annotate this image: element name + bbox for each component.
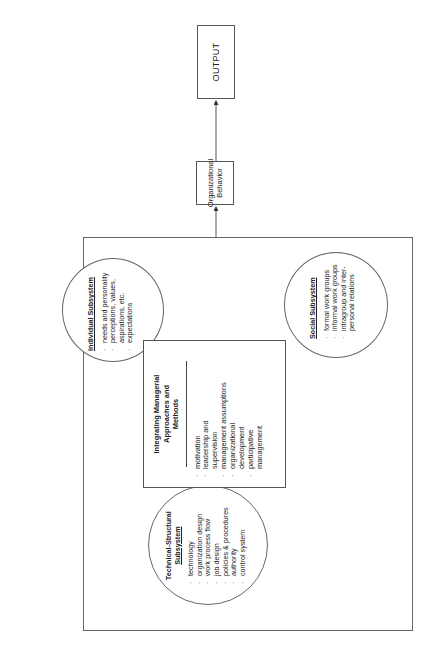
list-item: ·expectations: [126, 273, 135, 351]
center-title-line3: Methods: [171, 351, 181, 477]
center-divider: [186, 361, 187, 467]
output-box: OUTPUT: [197, 25, 235, 99]
list-item: management: [256, 351, 265, 477]
individual-title: Individual Subsystem: [87, 273, 96, 351]
technical-title-line2: Subsystem: [174, 507, 183, 584]
individual-list: ·needs and personality ·perceptions, val…: [101, 273, 135, 351]
center-list: ·motivation ·leadership and supervision …: [194, 351, 265, 477]
social-title: Social Subsystem: [309, 264, 318, 339]
list-item: ·control system: [239, 507, 248, 584]
org-behavior-box: Organizational Behavior: [196, 161, 234, 205]
center-title-line1: Integrating Managerial: [152, 351, 162, 477]
output-label: OUTPUT: [211, 43, 221, 82]
social-subsystem-circle: Social Subsystem ·formal work groups ·in…: [284, 252, 388, 358]
org-behavior-line1: Organizational: [206, 159, 215, 207]
integrating-approaches-box: Integrating Managerial Approaches and Me…: [143, 340, 286, 488]
org-behavior-diagram: Organizational Behavior OUTPUT Individua…: [0, 0, 432, 648]
list-item: personal relations: [348, 264, 357, 339]
social-list: ·formal work groups ·informal work group…: [323, 264, 357, 339]
center-title-line2: Approaches and: [162, 351, 172, 477]
org-behavior-line2: Behavior: [215, 159, 224, 207]
technical-subsystem-circle: Technical-Structural Subsystem ·technolo…: [148, 485, 268, 605]
technical-list: ·technology ·organization design ·work p…: [187, 507, 247, 584]
